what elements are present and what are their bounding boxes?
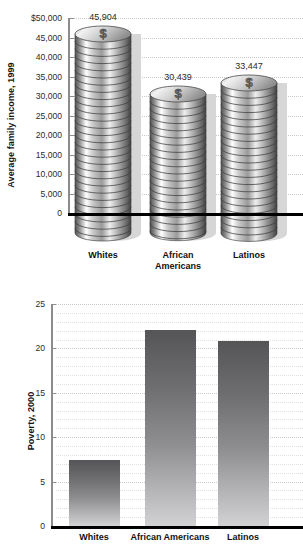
income-value-label-2: 33,447 bbox=[235, 61, 263, 71]
poverty-gridline bbox=[56, 304, 303, 305]
income-y-tick-35000: 35,000 bbox=[0, 72, 62, 82]
coin-stack-latinos: $ bbox=[220, 73, 294, 243]
poverty-y-tick-20: 20 bbox=[0, 343, 45, 353]
income-category-label-2: Latinos bbox=[204, 250, 294, 261]
income-y-tick-15000: 15,000 bbox=[0, 150, 62, 160]
income-y-tick-10000: 10,000 bbox=[0, 169, 62, 179]
income-y-tick-45000: 45,000 bbox=[0, 33, 62, 43]
poverty-chart-figure: Poverty, 2000 2520151050 WhitesAfrican A… bbox=[0, 296, 303, 556]
income-chart-y-axis-line bbox=[68, 18, 70, 214]
poverty-bar-latinos bbox=[218, 341, 269, 526]
income-y-tick-20000: 20,000 bbox=[0, 130, 62, 140]
income-y-tick-30000: 30,000 bbox=[0, 91, 62, 101]
poverty-chart-baseline bbox=[51, 526, 303, 529]
income-y-tick-5000: 5,000 bbox=[0, 189, 62, 199]
coin-stack-whites: $ bbox=[74, 24, 148, 243]
income-y-tick-25000: 25,000 bbox=[0, 111, 62, 121]
income-y-tick-40000: 40,000 bbox=[0, 52, 62, 62]
poverty-y-tick-0: 0 bbox=[0, 521, 45, 531]
svg-text:$: $ bbox=[174, 87, 182, 102]
poverty-y-tick-10: 10 bbox=[0, 432, 45, 442]
poverty-gridline-minor bbox=[56, 322, 303, 323]
income-chart-figure: Average family income, 1999 $50,00045,00… bbox=[0, 0, 303, 285]
svg-text:$: $ bbox=[245, 75, 253, 90]
svg-text:$: $ bbox=[99, 26, 107, 41]
poverty-gridline-minor bbox=[56, 313, 303, 314]
poverty-category-label-2: Latinos bbox=[188, 532, 298, 543]
poverty-y-tick-5: 5 bbox=[0, 477, 45, 487]
coin-stack-african-americans: $ bbox=[149, 84, 223, 243]
poverty-bar-whites bbox=[69, 460, 120, 526]
poverty-bar-african-americans bbox=[145, 330, 196, 526]
income-chart-baseline bbox=[68, 213, 303, 216]
poverty-y-tick-15: 15 bbox=[0, 388, 45, 398]
poverty-chart-y-axis-line bbox=[51, 304, 53, 527]
income-y-tick-0: 0 bbox=[0, 208, 62, 218]
poverty-chart-y-axis-title: Poverty, 2000 bbox=[26, 346, 36, 496]
poverty-y-tick-25: 25 bbox=[0, 299, 45, 309]
income-y-tick-50000: $50,000 bbox=[0, 13, 62, 23]
income-value-label-0: 45,904 bbox=[89, 12, 117, 22]
income-value-label-1: 30,439 bbox=[164, 72, 192, 82]
